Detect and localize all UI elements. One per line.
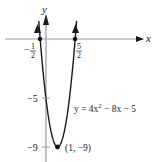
parabola-curve xyxy=(39,21,77,147)
x-tick-five-halves: 5 2 xyxy=(76,42,82,60)
curve-right-arrow-icon xyxy=(72,24,79,33)
root-point-right xyxy=(73,37,77,41)
vertex-point xyxy=(55,145,60,150)
x-axis-label: x xyxy=(145,32,151,44)
vertex-label: (1, −9) xyxy=(65,143,91,154)
svg-text:2: 2 xyxy=(31,51,35,60)
y-tick-label-minus9: −9 xyxy=(27,142,38,153)
svg-text:2: 2 xyxy=(77,51,81,60)
svg-text:1: 1 xyxy=(31,42,35,51)
y-tick-label-minus5: −5 xyxy=(27,93,38,104)
svg-text:5: 5 xyxy=(77,42,81,51)
equation-label: y = 4x2 − 8x − 5 xyxy=(74,102,136,114)
x-tick-neg-half: − 1 2 xyxy=(24,42,36,60)
root-point-left xyxy=(38,37,42,41)
y-axis-label: y xyxy=(41,3,47,15)
svg-text:−: − xyxy=(24,44,30,55)
parabola-chart: x y − 1 2 5 2 −5 −9 y = 4x2 − 8x − 5 (1,… xyxy=(0,0,155,162)
y-axis-arrow-icon xyxy=(43,14,49,25)
